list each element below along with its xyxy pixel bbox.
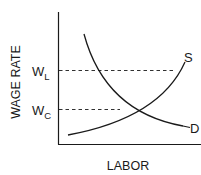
wl-label: WL — [32, 64, 50, 82]
demand-curve — [84, 34, 183, 126]
demand-label: D — [190, 121, 199, 136]
wc-label-main: W — [32, 103, 45, 118]
demand-label-leader — [183, 126, 190, 128]
y-axis-title: WAGE RATE — [9, 45, 23, 119]
labor-market-chart: S D WL WC WAGE RATE LABOR — [0, 0, 201, 175]
wl-label-main: W — [32, 64, 45, 79]
x-axis-title: LABOR — [107, 159, 149, 173]
supply-curve — [68, 62, 185, 135]
chart-canvas: S D WL WC WAGE RATE LABOR — [0, 0, 201, 175]
wc-label-sub: C — [44, 110, 51, 121]
wl-label-sub: L — [44, 71, 49, 82]
supply-label: S — [184, 50, 193, 65]
wc-label: WC — [32, 103, 51, 121]
